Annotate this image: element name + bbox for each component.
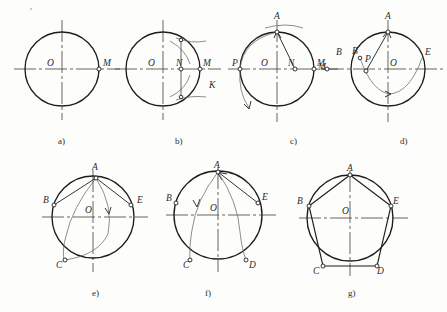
step-f-point-E <box>256 201 260 205</box>
step-f-arc-A-to-D <box>218 172 246 260</box>
label-c-O: O <box>261 58 268 68</box>
step-b-figure <box>115 20 221 120</box>
step-d-point-A <box>386 30 390 34</box>
label-e-O: O <box>85 205 92 215</box>
label-a-M: M <box>102 58 112 68</box>
step-d-point-B <box>358 56 362 60</box>
drawing-sheet: O M O N M K A P O N M B A B P O E M A B … <box>0 0 447 312</box>
caption-step-a: a) <box>58 136 65 146</box>
step-b-point-M <box>198 67 202 71</box>
step-e-arrow-on-arc <box>105 207 111 214</box>
step-a-point-M <box>97 67 101 71</box>
step-f-point-A <box>216 170 220 174</box>
label-d-M: M <box>317 62 327 72</box>
step-a-figure <box>14 20 120 120</box>
step-e-point-E <box>129 203 133 207</box>
label-c-B: B <box>336 47 342 57</box>
label-g-C: C <box>313 266 320 276</box>
caption-step-d: d) <box>400 136 408 146</box>
step-g-point-C <box>321 264 325 268</box>
step-e-point-A <box>94 176 98 180</box>
label-f-D: D <box>248 260 256 270</box>
label-f-C: C <box>183 260 190 270</box>
label-b-K: K <box>208 80 216 90</box>
step-c-arc-A-to-P <box>240 32 277 108</box>
label-b-N: N <box>175 58 183 68</box>
paper-speck <box>30 8 32 10</box>
caption-step-g: g) <box>348 288 356 298</box>
step-g-point-B <box>307 204 311 208</box>
label-e-A: A <box>91 162 98 172</box>
caption-step-c: c) <box>290 136 297 146</box>
step-e-figure <box>42 170 148 272</box>
step-g-point-A <box>348 173 352 177</box>
label-d-E: E <box>424 47 431 57</box>
label-d-A: A <box>384 11 391 21</box>
step-e-arc-secondary <box>63 178 96 260</box>
construction-drawing: O M O N M K A P O N M B A B P O E M A B … <box>0 0 447 312</box>
step-d-point-P <box>364 69 368 73</box>
step-c-point-M <box>312 67 316 71</box>
step-f-figure <box>166 167 276 272</box>
step-e-point-B <box>52 203 56 207</box>
label-b-O: O <box>148 58 155 68</box>
label-e-E: E <box>136 195 143 205</box>
label-f-B: B <box>166 193 172 203</box>
label-c-A: A <box>273 11 280 21</box>
label-g-E: E <box>392 196 399 206</box>
caption-step-f: f) <box>205 288 211 298</box>
label-b-M: M <box>202 58 212 68</box>
step-b-intersection-upper <box>179 38 183 42</box>
label-g-A: A <box>346 163 353 173</box>
label-c-P: P <box>231 58 238 68</box>
step-f-point-D <box>244 258 248 262</box>
step-c-point-A <box>275 30 279 34</box>
step-c-arc-tick-above-A <box>265 25 303 28</box>
step-b-intersection-lower <box>179 95 183 99</box>
label-c-N: N <box>287 58 295 68</box>
step-c-point-P <box>238 67 242 71</box>
label-d-B: B <box>352 46 358 56</box>
label-d-O: O <box>390 58 397 68</box>
label-f-O: O <box>210 203 217 213</box>
label-e-B: B <box>43 195 49 205</box>
caption-step-b: b) <box>175 136 183 146</box>
step-f-arc-A-to-C <box>190 172 218 260</box>
label-g-B: B <box>297 196 303 206</box>
step-f-point-B <box>174 201 178 205</box>
label-e-C: C <box>56 260 63 270</box>
step-g-figure <box>299 170 408 276</box>
label-g-D: D <box>376 266 384 276</box>
caption-step-e: e) <box>92 288 99 298</box>
label-a-O: O <box>47 58 54 68</box>
step-d-figure <box>322 20 445 122</box>
label-d-P: P <box>364 54 371 64</box>
label-g-O: O <box>342 206 349 216</box>
step-b-bisector-arc-lower-left <box>170 75 190 97</box>
step-f-arrow-on-arc <box>193 199 200 207</box>
label-f-A: A <box>213 160 220 170</box>
label-f-E: E <box>261 192 268 202</box>
step-e-point-C <box>63 258 67 262</box>
